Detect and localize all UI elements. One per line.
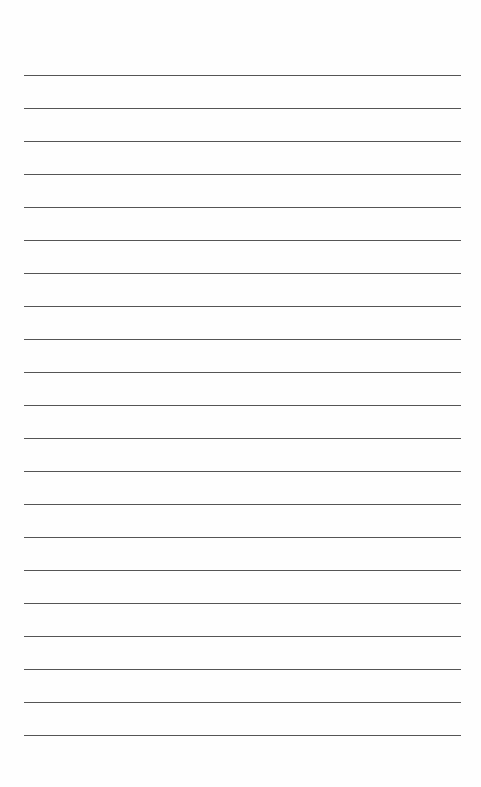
ruled-line <box>24 735 461 736</box>
ruled-line <box>24 636 461 637</box>
ruled-line <box>24 570 461 571</box>
ruled-line <box>24 405 461 406</box>
ruled-line <box>24 702 461 703</box>
ruled-line <box>24 339 461 340</box>
ruled-line <box>24 306 461 307</box>
ruled-line <box>24 108 461 109</box>
ruled-line <box>24 471 461 472</box>
ruled-line <box>24 438 461 439</box>
ruled-line <box>24 240 461 241</box>
ruled-line <box>24 75 461 76</box>
ruled-line <box>24 141 461 142</box>
ruled-line <box>24 537 461 538</box>
ruled-line <box>24 504 461 505</box>
ruled-line <box>24 273 461 274</box>
ruled-line <box>24 174 461 175</box>
ruled-line <box>24 603 461 604</box>
ruled-line <box>24 207 461 208</box>
lined-paper-page <box>0 0 481 787</box>
ruled-line <box>24 372 461 373</box>
ruled-line <box>24 669 461 670</box>
